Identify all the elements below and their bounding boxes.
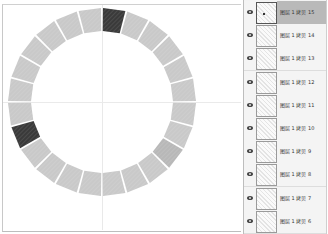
- loading-ring-graphic: [0, 0, 243, 234]
- eye-visibility-icon[interactable]: [247, 10, 253, 14]
- layer-row[interactable]: 图层 1 拷贝 7: [244, 187, 326, 211]
- layers-panel: 图层 1 拷贝 15图层 1 拷贝 14图层 1 拷贝 13图层 1 拷贝 12…: [243, 0, 327, 234]
- layer-row[interactable]: 图层 1 拷贝 8: [244, 163, 326, 187]
- eye-visibility-icon[interactable]: [247, 126, 253, 130]
- layer-name[interactable]: 图层 1 拷贝 7: [280, 194, 311, 202]
- layer-thumbnail[interactable]: [256, 95, 277, 117]
- ring-segment-texture: [103, 171, 126, 196]
- layer-name[interactable]: 图层 1 拷贝 10: [280, 124, 314, 132]
- eye-visibility-icon[interactable]: [247, 103, 253, 107]
- document-canvas[interactable]: [0, 0, 243, 234]
- layer-row[interactable]: 图层 1 拷贝 11: [244, 94, 326, 118]
- eye-visibility-icon[interactable]: [247, 80, 253, 84]
- layer-row[interactable]: 图层 1 拷贝 14: [244, 24, 326, 48]
- layer-thumbnail[interactable]: [256, 72, 277, 94]
- ring-segment-texture: [171, 103, 196, 126]
- ring-segment-texture: [103, 8, 126, 33]
- layer-name[interactable]: 图层 1 拷贝 11: [280, 101, 314, 109]
- layer-thumbnail[interactable]: [256, 118, 277, 140]
- layer-thumbnail[interactable]: [256, 48, 277, 70]
- layer-row[interactable]: 图层 1 拷贝 12: [244, 71, 326, 95]
- layer-row[interactable]: 图层 1 拷贝 15: [244, 1, 326, 25]
- layer-thumbnail[interactable]: [256, 25, 277, 47]
- layer-name[interactable]: 图层 1 拷贝 13: [280, 54, 314, 62]
- eye-visibility-icon[interactable]: [247, 56, 253, 60]
- layer-name[interactable]: 图层 1 拷贝 15: [280, 8, 314, 16]
- layer-row[interactable]: 图层 1 拷贝 10: [244, 117, 326, 141]
- layer-name[interactable]: 图层 1 拷贝 6: [280, 217, 311, 225]
- layer-thumbnail[interactable]: [256, 141, 277, 163]
- eye-visibility-icon[interactable]: [247, 33, 253, 37]
- ring-segment-texture: [79, 171, 102, 196]
- eye-visibility-icon[interactable]: [247, 219, 253, 223]
- layer-name[interactable]: 图层 1 拷贝 9: [280, 147, 311, 155]
- ring-segment-texture: [79, 8, 102, 33]
- ring-segment-texture: [8, 103, 33, 126]
- layer-thumbnail[interactable]: [256, 188, 277, 210]
- thumbnail-mark: [263, 13, 265, 15]
- layer-thumbnail[interactable]: [256, 164, 277, 186]
- eye-visibility-icon[interactable]: [247, 196, 253, 200]
- eye-visibility-icon[interactable]: [247, 149, 253, 153]
- layer-row[interactable]: 图层 1 拷贝 9: [244, 140, 326, 164]
- ring-segment-texture: [8, 79, 33, 102]
- layer-row[interactable]: 图层 1 拷贝 6: [244, 210, 326, 234]
- layer-row[interactable]: 图层 1 拷贝 13: [244, 47, 326, 71]
- ring-segment-texture: [171, 79, 196, 102]
- eye-visibility-icon[interactable]: [247, 172, 253, 176]
- layer-name[interactable]: 图层 1 拷贝 14: [280, 31, 314, 39]
- layer-thumbnail[interactable]: [256, 211, 277, 233]
- layer-thumbnail[interactable]: [256, 2, 277, 24]
- layer-name[interactable]: 图层 1 拷贝 12: [280, 78, 314, 86]
- layer-name[interactable]: 图层 1 拷贝 8: [280, 170, 311, 178]
